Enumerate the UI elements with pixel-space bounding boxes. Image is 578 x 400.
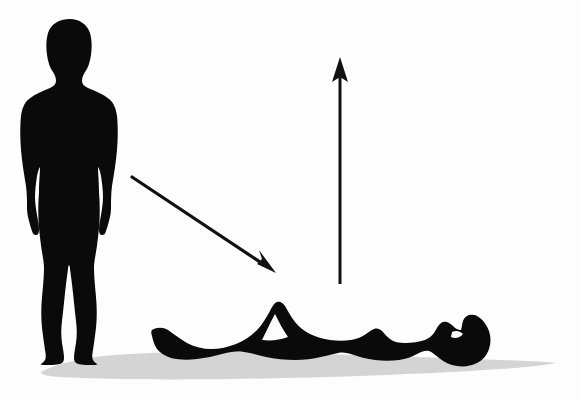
scene-canvas [0,0,578,400]
silhouette-scene [0,0,578,400]
